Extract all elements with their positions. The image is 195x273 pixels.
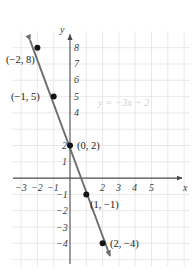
y-tick-2: 2 [62,141,67,151]
x-tick-neg3: −3 [15,183,27,193]
coordinate-plane-figure: y x 8 7 6 5 4 2 1 −1 −2 −3 −4 −3 −2 −1 2… [0,0,195,273]
y-tick-7: 7 [74,59,79,69]
y-tick-4: 4 [74,108,79,118]
point-label-neg2-8: (−2, 8) [6,55,35,66]
data-point [34,45,40,51]
x-tick-5: 5 [149,183,154,193]
x-tick-neg2: −2 [31,183,43,193]
x-axis-label: x [183,183,187,193]
data-point [51,94,57,100]
data-point [67,143,73,149]
y-tick-neg4: −4 [56,239,68,249]
point-label-2-neg4: (2, −4) [110,239,139,250]
y-tick-6: 6 [74,75,79,85]
y-axis-label: y [60,25,64,35]
y-tick-1: 1 [62,157,67,167]
point-label-neg1-5: (−1, 5) [11,92,40,103]
x-tick-3: 3 [116,183,121,193]
data-point [83,191,89,197]
graph-canvas [0,0,195,273]
x-tick-2: 2 [100,183,105,193]
x-tick-neg1: −1 [47,183,59,193]
data-point [100,240,106,246]
equation-annotation: y = −3x + 2 [98,98,150,109]
y-tick-neg2: −2 [56,206,68,216]
point-label-1-neg1: (1, −1) [90,200,119,211]
x-tick-4: 4 [132,183,137,193]
y-tick-5: 5 [74,92,79,102]
point-label-0-2: (0, 2) [77,141,100,152]
y-tick-8: 8 [74,43,79,53]
y-tick-neg3: −3 [56,223,68,233]
